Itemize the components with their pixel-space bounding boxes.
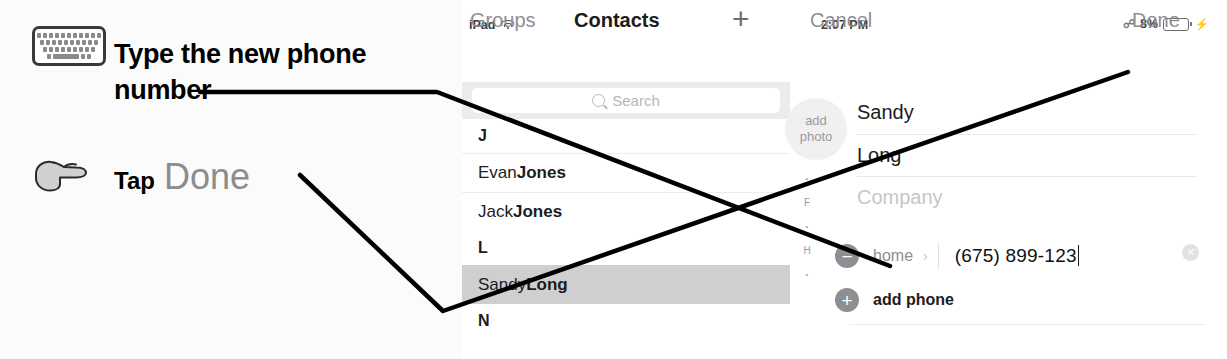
contacts-master-column: Search JEvan JonesJack JonesLSandy LongN <box>462 40 790 359</box>
field-divider <box>938 243 939 269</box>
add-phone-row[interactable]: + add phone <box>827 280 1227 320</box>
contact-last-name: Long <box>526 275 568 295</box>
instruction-tap-done: Tap Done <box>114 156 250 198</box>
contact-first-name: Sandy <box>478 275 526 295</box>
search-icon <box>592 94 605 107</box>
done-button[interactable]: Done <box>1132 9 1180 32</box>
chevron-right-icon[interactable]: › <box>923 248 928 264</box>
contacts-list: JEvan JonesJack JonesLSandy LongN <box>462 119 790 338</box>
index-bar-letter[interactable]: H <box>803 239 810 263</box>
index-bar-dot[interactable]: • <box>806 263 809 287</box>
instruction-type-number: Type the new phone number <box>114 36 444 108</box>
phone-number-value: (675) 899-123 <box>955 245 1077 266</box>
last-name-field[interactable]: Long <box>857 134 1197 175</box>
contact-last-name: Jones <box>517 163 566 183</box>
contact-list-item[interactable]: Jack Jones <box>462 192 790 231</box>
contact-last-name: Jones <box>513 202 562 222</box>
contact-list-item[interactable]: Sandy Long <box>462 265 790 304</box>
text-cursor <box>1078 245 1080 266</box>
contact-first-name: Jack <box>478 202 513 222</box>
annotation-panel: Type the new phone number Tap Done <box>0 0 462 359</box>
navigation-bar: Groups Contacts + Cancel Done <box>462 0 1227 40</box>
add-phone-label: add phone <box>873 291 954 309</box>
search-input[interactable]: Search <box>472 88 780 113</box>
index-bar-dot[interactable]: • <box>806 215 809 239</box>
search-placeholder: Search <box>612 92 660 109</box>
company-field[interactable]: Company <box>857 176 1197 217</box>
list-section-header: N <box>462 304 790 338</box>
first-name-field[interactable]: Sandy <box>857 92 1197 132</box>
cancel-button[interactable]: Cancel <box>810 9 872 32</box>
contact-first-name: Evan <box>478 163 517 183</box>
plus-icon[interactable]: + <box>732 2 750 36</box>
screenshot-root: Type the new phone number Tap Done iPad … <box>0 0 1227 359</box>
phone-label[interactable]: home <box>873 247 913 265</box>
index-bar-dot[interactable]: • <box>806 167 809 191</box>
minus-circle-icon[interactable]: − <box>835 244 859 268</box>
pointing-hand-icon <box>30 152 110 196</box>
page-title: Contacts <box>574 9 660 32</box>
keyboard-icon <box>32 26 106 66</box>
contact-edit-panel: add photo Sandy Long Company − home › (6… <box>827 40 1227 359</box>
phone-row: − home › (675) 899-123 ✕ <box>827 236 1227 276</box>
contact-list-item[interactable]: Evan Jones <box>462 153 790 192</box>
ipad-screen: iPad 2:07 PM ☍ 8% ⚡ Groups Contacts + Ca… <box>462 0 1227 359</box>
add-photo-line1: add <box>805 113 827 129</box>
section-divider <box>849 324 1205 325</box>
list-section-header: L <box>462 231 790 265</box>
phone-number-input[interactable]: (675) 899-123 <box>955 245 1080 267</box>
groups-button[interactable]: Groups <box>470 9 536 32</box>
done-target-label: Done <box>164 156 250 198</box>
add-photo-button[interactable]: add photo <box>785 98 847 160</box>
tap-label: Tap <box>114 167 155 195</box>
search-bar[interactable]: Search <box>462 82 790 119</box>
list-section-header: J <box>462 119 790 153</box>
clear-circle-icon[interactable]: ✕ <box>1182 244 1199 261</box>
add-photo-line2: photo <box>800 129 833 145</box>
plus-circle-icon[interactable]: + <box>835 288 859 312</box>
index-bar-letter[interactable]: F <box>804 191 810 215</box>
